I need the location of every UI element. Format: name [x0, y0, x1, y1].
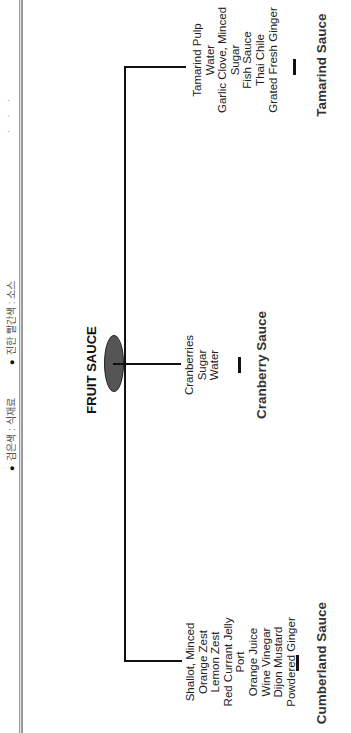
ingredient: Sugar	[229, 0, 242, 125]
legend-label-sauce: 진한 빨간색 : 소스	[6, 281, 17, 355]
ingredient: Tamarind Pulp	[191, 0, 204, 125]
ingredient: Red Currant Jelly	[222, 597, 235, 727]
sauce-label-cumberland: Cumberland Sauce	[314, 593, 329, 733]
ingredient: Cranberries	[183, 315, 196, 415]
branch-connector-tamarind	[124, 66, 186, 68]
ingredient: Fish Sauce	[241, 0, 254, 125]
bullet-icon: ●	[7, 466, 17, 471]
ingredient: Orange Juice	[247, 597, 260, 727]
ingredient-list-tamarind: Tamarind Pulp Water Garlic Clove, Minced…	[191, 0, 279, 125]
legend-item-sauce: ● 진한 빨간색 : 소스	[3, 281, 18, 365]
ingredient: Grated Fresh Ginger	[267, 0, 280, 125]
sauce-connector-cranberry	[238, 357, 241, 373]
ingredient-list-cranberry: Cranberries Sugar Water	[183, 315, 221, 415]
sauce-connector-cumberland	[296, 655, 299, 671]
rotated-diagram-canvas: ● 검은색 : 식재료 ● 진한 빨간색 : 소스 · · · FRUIT SA…	[0, 0, 351, 733]
branch-connector-cranberry	[113, 363, 181, 365]
root-title: FRUIT SAUCE	[84, 320, 99, 420]
legend-item-ingredients: ● 검은색 : 식재료	[3, 398, 18, 471]
ingredient: Port	[234, 597, 247, 727]
edge-mark: · · ·	[3, 99, 13, 133]
ingredient: Shallot, Minced	[184, 597, 197, 727]
sauce-connector-tamarind	[293, 59, 296, 75]
sauce-label-tamarind: Tamarind Sauce	[314, 0, 329, 130]
ingredient: Lemon Zest	[209, 597, 222, 727]
ingredient: Thai Chile	[254, 0, 267, 125]
ingredient: Water	[204, 0, 217, 125]
ingredient: Water	[208, 315, 221, 415]
legend-label-ingredients: 검은색 : 식재료	[6, 398, 17, 460]
ingredient: Garlic Clove, Minced	[216, 0, 229, 125]
ingredient-list-cumberland: Shallot, Minced Orange Zest Lemon Zest R…	[184, 597, 297, 727]
ingredient: Orange Zest	[197, 597, 210, 727]
ingredient: Sugar	[196, 315, 209, 415]
branch-connector-cumberland	[124, 660, 182, 662]
ingredient: Dijon Mustard	[272, 597, 285, 727]
bullet-icon: ●	[7, 360, 17, 365]
sauce-label-cranberry: Cranberry Sauce	[254, 300, 269, 430]
header-divider-highlight	[20, 0, 21, 733]
ingredient: Wine Vinegar	[260, 597, 273, 727]
